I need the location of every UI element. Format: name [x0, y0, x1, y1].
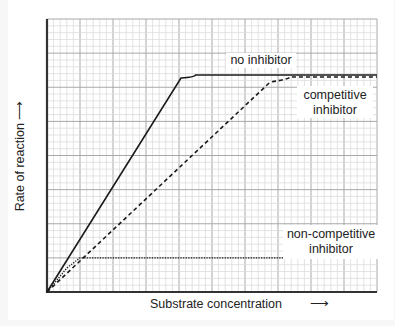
x-axis-label: Substrate concentration⟶	[150, 296, 329, 311]
y-axis-label: Rate of reaction ⟶	[4, 56, 34, 256]
y-axis-arrow-icon: ⟶	[13, 101, 27, 120]
plot-area	[0, 0, 395, 326]
label-non-competitive-inhibitor: non-competitiveinhibitor	[282, 225, 380, 259]
label-competitive-inhibitor: competitiveinhibitor	[292, 86, 378, 118]
x-axis-arrow-icon: ⟶	[310, 297, 329, 311]
label-no-inhibitor: no inhibitor	[206, 53, 316, 68]
